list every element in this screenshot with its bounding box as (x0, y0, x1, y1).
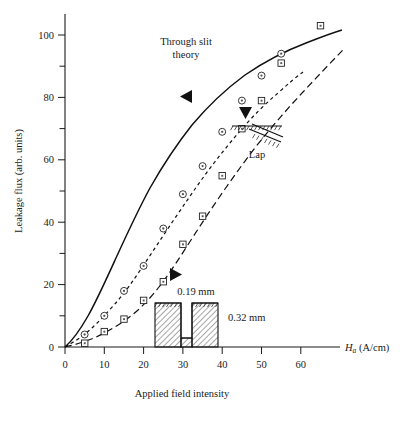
data-point (219, 173, 225, 179)
data-point (160, 279, 166, 285)
data-point (278, 50, 285, 57)
y-axis-title-text: Leakage flux (arb. units) (13, 129, 25, 233)
x-axis (65, 347, 340, 354)
data-point (199, 213, 205, 219)
data-point (199, 163, 206, 170)
data-point (101, 328, 107, 334)
theory-label-line1: Through slit (160, 36, 212, 47)
y-tick-label: 40 (44, 217, 55, 228)
y-tick-label: 60 (44, 154, 55, 165)
x-tick-label: 10 (99, 359, 110, 370)
data-point (140, 262, 147, 269)
data-point (121, 287, 128, 294)
right-triangle-icon (170, 268, 182, 281)
x-tick-label: 0 (62, 359, 67, 370)
x-tick-label: 30 (178, 359, 189, 370)
x-axis-title-text: Applied field intensity (135, 388, 230, 399)
down-triangle-icon (239, 107, 252, 119)
x-axis-unit: (A/cm) (359, 342, 390, 354)
y-tick-label: 80 (44, 92, 55, 103)
data-point (121, 316, 127, 322)
y-axis (58, 14, 65, 347)
data-point (180, 241, 186, 247)
x-tick-label: 50 (256, 359, 267, 370)
data-point (258, 72, 265, 79)
data-point (278, 60, 284, 66)
series-through-slit-markers (82, 23, 324, 347)
x-axis-tick-labels: 0 10 20 30 40 50 60 (62, 359, 306, 370)
plot-canvas: 0 20 40 60 80 100 0 10 20 30 40 50 60 Ha… (0, 0, 411, 429)
y-tick-label: 0 (49, 342, 54, 353)
data-point (140, 297, 146, 303)
data-point (101, 312, 108, 319)
series-lap (65, 72, 303, 347)
data-point (81, 331, 88, 338)
theory-label-line2: theory (173, 49, 201, 60)
svg-text:Ha (A/cm): Ha (A/cm) (344, 342, 390, 355)
data-point (179, 191, 186, 198)
x-axis-symbol-label: Ha (A/cm) (344, 342, 390, 355)
left-triangle-icon (180, 90, 192, 103)
y-tick-label: 20 (44, 279, 55, 290)
y-axis-title: Leakage flux (arb. units) (13, 129, 25, 233)
data-point (160, 225, 167, 232)
data-point (82, 340, 88, 346)
x-tick-label: 20 (138, 359, 149, 370)
data-point (238, 97, 245, 104)
slit-gap-label: 0.19 mm (177, 286, 214, 297)
slit-cross-section-inset (155, 303, 219, 347)
lap-label: Lap (249, 149, 265, 160)
x-tick-label: 60 (296, 359, 307, 370)
y-tick-label: 100 (38, 30, 54, 41)
data-point (258, 97, 264, 103)
series-through-slit-theory (65, 30, 342, 347)
leakage-flux-figure: 0 20 40 60 80 100 0 10 20 30 40 50 60 Ha… (0, 0, 411, 429)
y-axis-tick-labels: 0 20 40 60 80 100 (38, 30, 54, 353)
x-tick-label: 40 (217, 359, 228, 370)
slit-depth-label: 0.32 mm (228, 312, 265, 323)
series-through-slit-measured (65, 48, 345, 347)
data-point (317, 23, 323, 29)
data-point (219, 128, 226, 135)
